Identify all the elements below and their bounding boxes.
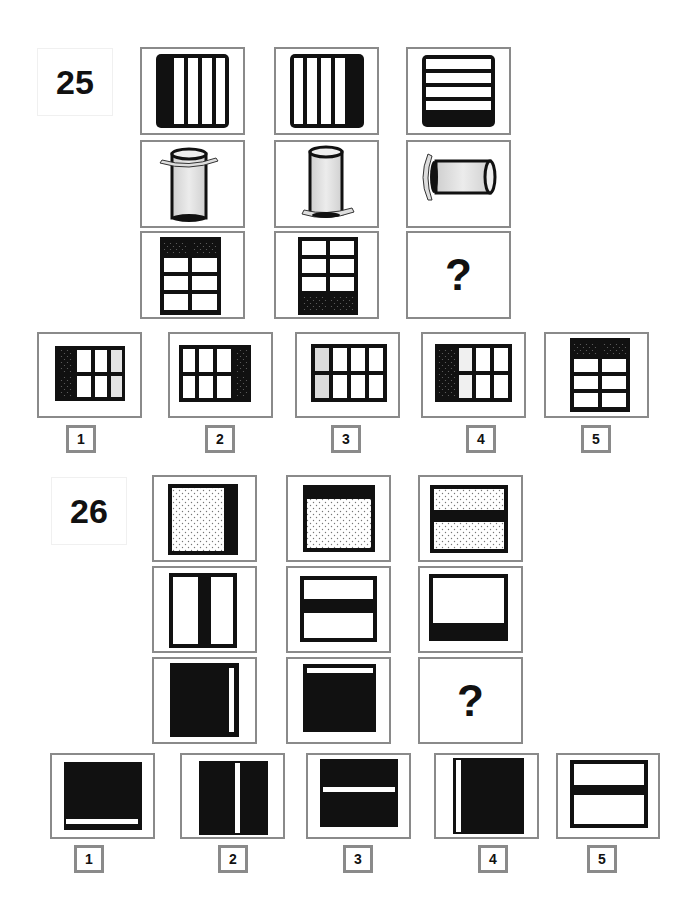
- horizontal-stripes-bottom-black-figure: [408, 49, 509, 133]
- grid-left-column-dotted-figure: [39, 334, 140, 416]
- option-25-label-4[interactable]: 4: [466, 425, 496, 453]
- matrix-25-r1-c3: [406, 47, 511, 135]
- matrix-26-r3-c3-missing: ?: [418, 657, 523, 744]
- white-square-horizontal-middle-bar-figure: [288, 568, 389, 651]
- matrix-26-r3-c2: [286, 657, 391, 744]
- black-square-white-bottom-line-figure: [52, 755, 153, 837]
- matrix-25-r1-c1: [140, 47, 245, 135]
- cylinder-rim-top-figure: [142, 142, 243, 226]
- matrix-26-r1-c3: [418, 475, 523, 562]
- option-26-label-2[interactable]: 2: [218, 845, 248, 873]
- dotted-square-black-top-bar-figure: [288, 477, 389, 560]
- matrix-26-r1-c1: [152, 475, 257, 562]
- cylinder-rim-left-figure: [408, 142, 509, 226]
- black-square-white-top-line-figure: [288, 659, 389, 742]
- matrix-25-r3-c2: [274, 231, 379, 319]
- white-square-black-horizontal-middle-bar-figure: [558, 755, 658, 837]
- matrix-25-r1-c2: [274, 47, 379, 135]
- option-25-2[interactable]: [168, 332, 273, 418]
- grid-bottom-row-dotted-figure: [276, 233, 377, 317]
- option-25-4[interactable]: [421, 332, 526, 418]
- dotted-square-black-right-bar-figure: [154, 477, 255, 560]
- problem-number-25: 25: [37, 48, 113, 116]
- cylinder-rim-bottom-figure: [276, 142, 377, 226]
- option-26-label-1[interactable]: 1: [74, 845, 104, 873]
- white-square-vertical-middle-bar-figure: [154, 568, 255, 651]
- grid-left-column-gray-figure: [297, 334, 398, 416]
- matrix-25-r2-c3: [406, 140, 511, 228]
- option-25-label-2[interactable]: 2: [205, 425, 235, 453]
- option-25-label-3[interactable]: 3: [331, 425, 361, 453]
- option-25-label-5[interactable]: 5: [581, 425, 611, 453]
- grid-top-row-dotted-figure: [546, 334, 647, 416]
- vertical-stripes-right-black-figure: [276, 49, 377, 133]
- matrix-25-r2-c2: [274, 140, 379, 228]
- dotted-square-black-middle-bar-figure: [420, 477, 521, 560]
- grid-right-column-dotted-figure: [170, 334, 271, 416]
- black-square-white-vertical-middle-line-figure: [182, 755, 283, 837]
- matrix-25-r3-c3-missing: ?: [406, 231, 511, 319]
- question-mark: ?: [408, 233, 509, 317]
- option-26-label-4[interactable]: 4: [478, 845, 508, 873]
- black-square-white-left-line-figure: [436, 755, 537, 837]
- option-25-5[interactable]: [544, 332, 649, 418]
- vertical-stripes-left-black-figure: [142, 49, 243, 133]
- option-25-1[interactable]: [37, 332, 142, 418]
- matrix-26-r2-c2: [286, 566, 391, 653]
- matrix-25-r3-c1: [140, 231, 245, 319]
- option-26-1[interactable]: [50, 753, 155, 839]
- option-26-2[interactable]: [180, 753, 285, 839]
- white-square-black-bottom-bar-figure: [420, 568, 521, 651]
- matrix-26-r1-c2: [286, 475, 391, 562]
- matrix-26-r3-c1: [152, 657, 257, 744]
- matrix-25-r2-c1: [140, 140, 245, 228]
- option-25-label-1[interactable]: 1: [66, 425, 96, 453]
- matrix-26-r2-c1: [152, 566, 257, 653]
- problem-number-26: 26: [51, 477, 127, 545]
- option-26-4[interactable]: [434, 753, 539, 839]
- option-26-3[interactable]: [306, 753, 411, 839]
- option-26-label-3[interactable]: 3: [343, 845, 373, 873]
- matrix-26-r2-c3: [418, 566, 523, 653]
- grid-left-column-dotted-figure: [423, 334, 524, 416]
- question-mark: ?: [420, 659, 521, 742]
- black-square-white-right-line-figure: [154, 659, 255, 742]
- grid-top-row-dotted-figure: [142, 233, 243, 317]
- option-26-5[interactable]: [556, 753, 660, 839]
- black-square-white-horizontal-middle-line-figure: [308, 755, 409, 837]
- option-26-label-5[interactable]: 5: [587, 845, 617, 873]
- option-25-3[interactable]: [295, 332, 400, 418]
